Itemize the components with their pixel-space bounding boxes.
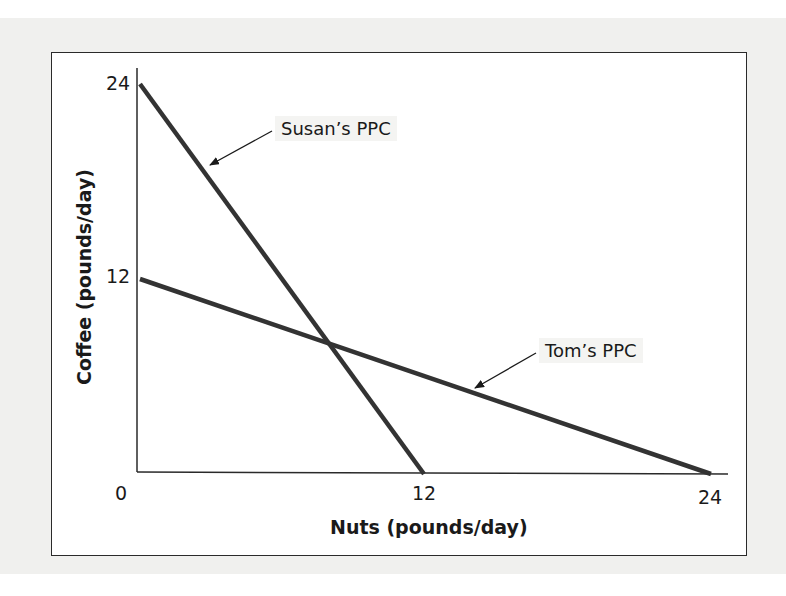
y-tick-12: 12 — [106, 267, 130, 286]
x-tick-12: 12 — [412, 484, 436, 503]
susan-annotation-arrow — [210, 131, 272, 165]
susan-ppc-annotation: Susan’s PPC — [275, 116, 397, 141]
y-tick-24: 24 — [106, 74, 130, 93]
tom-ppc-annotation: Tom’s PPC — [539, 338, 643, 363]
x-axis-title: Nuts (pounds/day) — [330, 516, 528, 538]
tom-annotation-arrow — [475, 353, 536, 388]
origin-label: 0 — [115, 484, 127, 503]
x-tick-24: 24 — [698, 488, 722, 507]
y-axis-title: Coffee (pounds/day) — [73, 169, 95, 385]
susan-ppc-line — [140, 84, 424, 474]
x-axis — [137, 472, 728, 474]
tom-ppc-line — [140, 279, 711, 474]
